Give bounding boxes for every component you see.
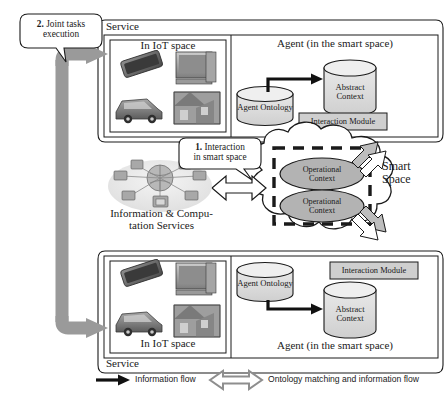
smart-space-line1: Smart — [382, 159, 411, 173]
top-iot-device-computer-icon — [176, 52, 216, 84]
callout-joint-tasks-number: 2. — [37, 19, 44, 29]
top-abstract-context-line2: Context — [336, 91, 363, 101]
bottom-agent-ontology-label: Agent Ontology — [237, 279, 293, 288]
top-agent-label: Agent (in the smart space) — [232, 38, 438, 50]
top-iot-device-smart-home-icon — [174, 92, 220, 124]
bottom-service-label: Service — [106, 358, 176, 370]
ics-line2: tation Services — [129, 219, 194, 231]
operational-context-2-line2: Context — [309, 206, 335, 215]
bottom-agent-label: Agent (in the smart space) — [232, 340, 438, 352]
legend-information-flow-arrow-icon — [96, 375, 130, 386]
callout-interaction-number: 1. — [195, 142, 202, 152]
top-interaction-module-label: Interaction Module — [299, 117, 387, 126]
operational-context-label-2: Operational Context — [282, 197, 362, 215]
operational-context-2-line1: Operational — [303, 197, 342, 206]
legend-label-ontology-matching: Ontology matching and information flow — [268, 375, 446, 384]
callout-joint-tasks-line1: Joint tasks — [46, 19, 85, 29]
top-iot-space-label: In IoT space — [110, 40, 226, 52]
smart-space-line2: Space — [382, 172, 411, 186]
callout-interaction-line2: in smart space — [193, 152, 246, 162]
bottom-iot-device-smart-home-icon — [174, 305, 220, 337]
top-abstract-context-label: Abstract Context — [324, 83, 376, 102]
operational-context-1-line2: Context — [309, 174, 335, 183]
callout-joint-tasks-text: 2. Joint tasks execution — [22, 19, 100, 40]
information-computation-services-label: Information & Compu- tation Services — [94, 207, 229, 231]
ics-line1: Information & Compu- — [110, 207, 213, 219]
smart-space-label: Smart Space — [382, 160, 440, 186]
legend-label-information-flow: Information flow — [135, 375, 235, 384]
top-service-label: Service — [106, 21, 176, 33]
bottom-iot-space-label: In IoT space — [110, 338, 226, 350]
top-agent-ontology-label: Agent Ontology — [237, 103, 293, 112]
operational-context-label-1: Operational Context — [282, 165, 362, 183]
operational-context-1-line1: Operational — [303, 165, 342, 174]
bottom-abstract-context-line2: Context — [336, 313, 363, 323]
callout-interaction-line1: Interaction — [205, 142, 245, 152]
callout-interaction-text: 1. Interaction in smart space — [181, 142, 259, 163]
bottom-interaction-module-label: Interaction Module — [330, 266, 418, 275]
figure-root: 2. Joint tasks execution 1. Interaction … — [0, 0, 446, 414]
bottom-iot-device-computer-icon — [176, 263, 216, 295]
bottom-abstract-context-label: Abstract Context — [324, 305, 376, 324]
callout-joint-tasks-line2: execution — [43, 29, 79, 39]
